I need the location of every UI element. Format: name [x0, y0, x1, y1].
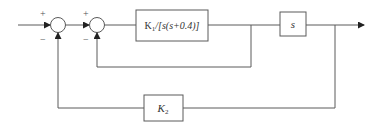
summing-junction-1: + −: [40, 8, 66, 45]
sum2-plus-sign: +: [83, 8, 89, 19]
forward-transfer-block: K1/[s(s+0.4)]: [136, 10, 208, 41]
sum2-minus-sign: −: [83, 34, 89, 45]
block-diagram: + − + − K1/[s(s+0.4)] s K2: [0, 0, 381, 129]
feedback-gain-block: K2: [144, 95, 183, 121]
sum1-minus-sign: −: [40, 34, 46, 45]
derivative-block: s: [280, 12, 306, 36]
sum1-plus-sign: +: [40, 8, 46, 19]
summing-junction-2: + −: [83, 8, 105, 45]
svg-text:s: s: [291, 18, 295, 30]
outer-feedback-line-left: [58, 33, 144, 108]
